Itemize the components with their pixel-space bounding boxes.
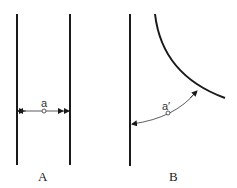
panel-a: a A xyxy=(17,14,70,184)
midpoint-marker-a xyxy=(42,109,46,113)
caption-a: A xyxy=(38,169,48,184)
curved-wall-b xyxy=(155,14,225,98)
diagram: a A a′ B xyxy=(0,0,237,188)
distance-arc-b-tip xyxy=(190,91,197,98)
measure-label-a: a xyxy=(41,97,48,109)
panel-b: a′ B xyxy=(130,14,225,184)
measure-label-b: a′ xyxy=(162,100,170,112)
caption-b: B xyxy=(169,169,178,184)
